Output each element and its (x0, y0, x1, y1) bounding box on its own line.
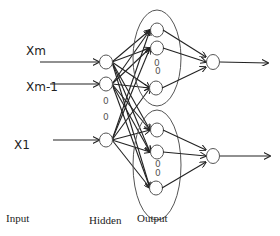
output-ellipsis: 0 (155, 66, 161, 76)
neural-network-diagram: Xm Xm-1 X1 0 0 (0, 0, 280, 236)
hidden-ellipsis: 0 (103, 96, 109, 106)
final-output-arrows (220, 62, 270, 156)
output-node (151, 41, 164, 55)
output-node (150, 181, 163, 195)
final-layer (207, 55, 220, 164)
layer-label-output: Output (137, 212, 168, 224)
output-ellipsis: 0 (155, 168, 161, 178)
hidden-node (100, 77, 113, 91)
hidden-output-connections (112, 30, 150, 188)
final-node (207, 55, 220, 70)
output-node (150, 81, 163, 95)
output-node (151, 23, 164, 37)
output-final-connections (162, 30, 206, 188)
hidden-node (100, 55, 113, 69)
layer-label-hidden: Hidden (89, 214, 122, 226)
final-node (207, 149, 220, 164)
hidden-node (100, 133, 113, 147)
output-node (151, 145, 164, 159)
input-arrows (40, 62, 99, 140)
layer-label-input: Input (6, 212, 29, 224)
hidden-ellipsis: 0 (103, 112, 109, 122)
input-label-xm: Xm (26, 44, 46, 58)
input-label-x1: X1 (14, 138, 30, 152)
input-label-xm-1: Xm-1 (26, 80, 58, 94)
output-node (151, 123, 164, 137)
